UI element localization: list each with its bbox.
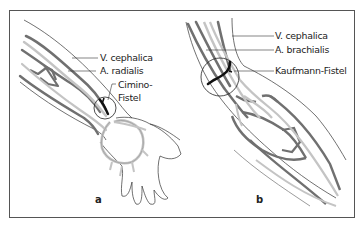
label-vena-cephalica-a: V. cephalica [100,52,153,63]
label-arteria-brachialis: A. brachialis [275,44,329,55]
label-cimino-fistula-line1: Cimino- [118,79,152,90]
panel-letter-b: b [256,194,263,205]
label-kaufmann-fistula: Kaufmann-Fistel [275,65,347,76]
label-arteria-radialis: A. radialis [100,65,143,76]
panel-a-drawing [20,20,181,204]
label-vena-cephalica-b: V. cephalica [275,30,328,41]
label-cimino-fistula-line2: Fistel [118,92,141,103]
panel-letter-a: a [95,194,102,205]
